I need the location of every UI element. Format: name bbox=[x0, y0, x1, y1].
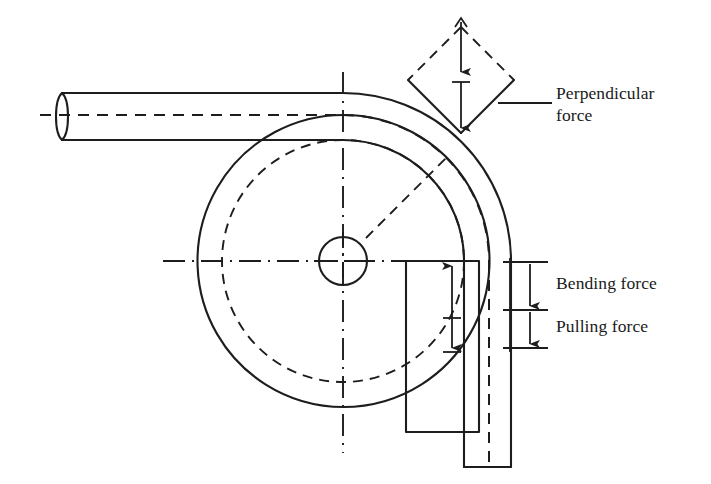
perpendicular-force-label: Perpendicular force bbox=[556, 82, 654, 127]
tube-outer-wall bbox=[62, 93, 511, 467]
tube-inner-wall bbox=[62, 140, 464, 432]
diamond-edge-lower-left bbox=[408, 80, 461, 133]
perpendicular-force-label-line1: Perpendicular bbox=[556, 82, 654, 104]
perpendicular-force-label-line2: force bbox=[556, 104, 654, 126]
force-dimension-stack bbox=[503, 258, 548, 352]
die-radius-line bbox=[366, 155, 449, 238]
diamond-edge-lower-right bbox=[461, 80, 514, 133]
diamond-edge-upper-left bbox=[408, 27, 461, 80]
tube-bending-diagram bbox=[0, 0, 711, 484]
pulling-force-label: Pulling force bbox=[556, 315, 648, 337]
bending-force-arrow bbox=[443, 266, 461, 352]
axis-centerlines bbox=[163, 72, 427, 453]
clamp-die-block bbox=[406, 261, 479, 432]
bending-force-label: Bending force bbox=[556, 272, 657, 294]
tube-workpiece bbox=[56, 93, 511, 467]
diagram-canvas: Perpendicular force Bending force Pullin… bbox=[0, 0, 711, 484]
diamond-edge-upper-right bbox=[461, 27, 514, 80]
tube-open-end-ellipse bbox=[56, 93, 68, 140]
